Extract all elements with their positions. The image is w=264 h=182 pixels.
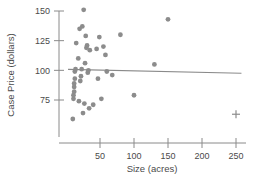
x-tick-label: 150	[160, 151, 175, 161]
scatter-point	[81, 7, 86, 12]
scatter-point	[97, 35, 102, 40]
scatter-point	[83, 61, 88, 66]
scatter-point	[72, 76, 77, 81]
scatter-point	[94, 47, 99, 52]
scatter-point	[79, 74, 84, 79]
scatter-point	[76, 56, 81, 61]
x-axis-tick-labels: 50100150200250	[95, 151, 244, 161]
scatter-point	[96, 76, 101, 81]
scatter-point	[87, 48, 92, 53]
x-tick-label: 250	[228, 151, 243, 161]
scatter-point	[132, 93, 137, 98]
outlier-markers-group	[232, 110, 240, 118]
x-tick-label: 200	[194, 151, 209, 161]
y-axis-title: Case Price (dollars)	[5, 33, 16, 116]
scatter-point	[118, 32, 123, 37]
y-tick-label: 75	[40, 95, 50, 105]
scatter-point	[78, 79, 83, 84]
x-axis-title: Size (acres)	[127, 163, 178, 174]
x-tick-label: 50	[95, 151, 105, 161]
scatter-point	[70, 117, 75, 122]
scatter-point	[82, 101, 87, 106]
y-tick-label: 150	[35, 6, 50, 16]
scatter-point	[74, 41, 79, 46]
scatter-point	[91, 102, 96, 107]
x-axis-group: 50100150200250	[59, 138, 246, 161]
scatter-point	[85, 43, 90, 48]
scatter-point	[81, 111, 86, 116]
regression-trend-line	[68, 69, 241, 73]
scatter-point	[166, 17, 171, 22]
chart-canvas: 75100125150 50100150200250 Size (acres) …	[0, 0, 264, 182]
scatter-point	[72, 81, 77, 86]
scatter-point	[77, 99, 82, 104]
scatter-point	[99, 96, 104, 101]
scatter-point	[101, 44, 106, 49]
scatter-point	[103, 53, 108, 58]
plus-marker-icon	[232, 110, 240, 118]
scatter-point	[152, 62, 157, 67]
scatter-point	[87, 106, 92, 111]
y-axis-group: 75100125150	[35, 6, 64, 137]
scatter-points-group	[70, 7, 170, 121]
scatter-chart-figure: 75100125150 50100150200250 Size (acres) …	[0, 0, 264, 182]
y-tick-label: 100	[35, 66, 50, 76]
scatter-point	[72, 89, 77, 94]
scatter-point	[80, 24, 85, 29]
y-tick-label: 125	[35, 36, 50, 46]
y-axis-tick-labels: 75100125150	[35, 6, 50, 105]
scatter-point	[110, 73, 115, 78]
scatter-point	[83, 34, 88, 39]
x-tick-label: 100	[126, 151, 141, 161]
